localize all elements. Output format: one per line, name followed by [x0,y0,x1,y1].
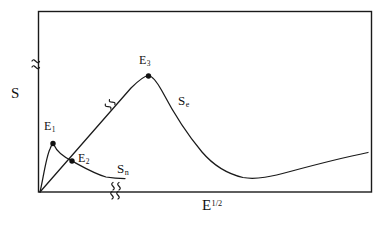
curve-se [40,76,368,193]
marker-e3 [146,73,151,78]
point-label-e2-sub: 2 [85,157,89,166]
point-label-e3-sub: 3 [146,59,150,68]
plot-canvas [0,0,383,227]
point-label-e1-sub: 1 [51,125,55,134]
stopping-power-figure: S E1/2 E1 E2 E3 Se Sn [0,0,383,227]
x-axis-label: E1/2 [202,198,222,213]
curve-label-sn: Sn [117,162,129,177]
se-curve-break-icon [104,99,115,110]
point-label-e3: E3 [139,54,151,67]
sn-curve-break-icon [112,183,121,191]
x-axis-label-exponent: 1/2 [211,199,222,208]
point-label-e1: E1 [44,120,56,133]
y-axis-label: S [11,86,19,101]
point-label-e2: E2 [78,152,90,165]
curve-label-se: Se [178,94,189,109]
curve-label-sn-sub: n [124,168,129,177]
curve-label-se-sub: e [185,100,189,109]
marker-e2 [69,158,74,163]
x-axis-label-base: E [202,197,211,213]
marker-e1 [50,141,55,146]
